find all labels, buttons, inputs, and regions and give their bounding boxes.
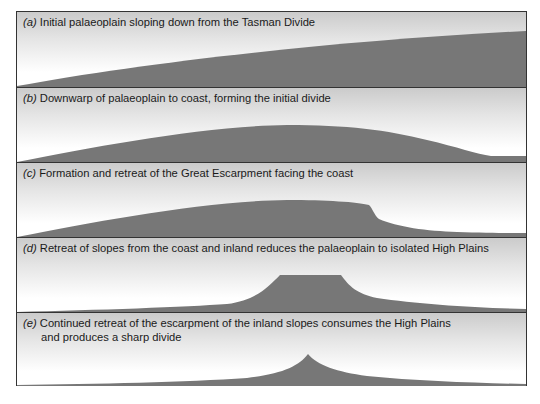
caption-text: Continued retreat of the escarpment of t… bbox=[40, 317, 451, 329]
caption-text: Downwarp of palaeoplain to coast, formin… bbox=[40, 92, 331, 104]
panel-letter: (d) bbox=[23, 242, 37, 254]
panel-caption-c: (c) Formation and retreat of the Great E… bbox=[23, 167, 353, 181]
panel-letter: (b) bbox=[23, 92, 37, 104]
panel-a: (a) Initial palaeoplain sloping down fro… bbox=[17, 12, 526, 87]
panel-caption-d: (d) Retreat of slopes from the coast and… bbox=[23, 242, 489, 256]
caption-text: Retreat of slopes from the coast and inl… bbox=[40, 242, 489, 254]
panel-caption-e: (e) Continued retreat of the escarpment … bbox=[23, 317, 451, 344]
panel-b: (b) Downwarp of palaeoplain to coast, fo… bbox=[17, 87, 526, 163]
panel-letter: (a) bbox=[23, 16, 37, 28]
panel-caption-a: (a) Initial palaeoplain sloping down fro… bbox=[23, 16, 315, 30]
caption-text: Initial palaeoplain sloping down from th… bbox=[40, 16, 315, 28]
caption-text-line2: and produces a sharp divide bbox=[23, 331, 451, 345]
panel-letter: (e) bbox=[23, 317, 37, 329]
panel-e: (e) Continued retreat of the escarpment … bbox=[17, 312, 526, 386]
caption-text: Formation and retreat of the Great Escar… bbox=[39, 167, 353, 179]
panel-c: (c) Formation and retreat of the Great E… bbox=[17, 162, 526, 238]
panel-caption-b: (b) Downwarp of palaeoplain to coast, fo… bbox=[23, 92, 331, 106]
panel-d: (d) Retreat of slopes from the coast and… bbox=[17, 237, 526, 313]
figure-frame: (a) Initial palaeoplain sloping down fro… bbox=[16, 11, 527, 386]
panel-letter: (c) bbox=[23, 167, 36, 179]
